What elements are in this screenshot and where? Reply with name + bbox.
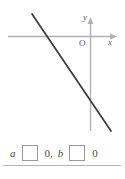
figure-panel: y x O [0, 0, 125, 138]
blank-box-a[interactable] [22, 145, 38, 161]
bottom-divider [3, 165, 121, 166]
origin-label: O [79, 39, 86, 48]
coordinate-plane-figure [0, 0, 125, 138]
variable-b-label: b [58, 148, 64, 159]
y-axis [88, 17, 94, 131]
plotted-line [32, 14, 111, 131]
zero-b-label: 0 [92, 148, 98, 159]
variable-a-label: a [10, 148, 16, 159]
answer-row: a 0 , b 0 [0, 140, 125, 166]
x-axis [8, 34, 117, 40]
blank-box-b[interactable] [69, 145, 85, 161]
y-axis-arrow-icon [88, 17, 94, 24]
comma-separator: , [50, 148, 53, 159]
x-axis-label: x [108, 38, 112, 47]
y-axis-label: y [83, 13, 87, 22]
